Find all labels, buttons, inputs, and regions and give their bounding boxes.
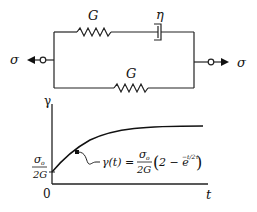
creep-graph (49, 104, 208, 184)
left-arrow-icon (27, 56, 35, 64)
bottom-spring-label: G (126, 66, 136, 81)
origin-label: 0 (43, 187, 51, 201)
dashpot-label: η (156, 7, 164, 22)
svg-text:2G: 2G (32, 169, 47, 180)
dashpot (154, 24, 194, 40)
svg-text:γ(t) =: γ(t) = (102, 156, 134, 169)
equation-label: γ(t) = σ o 2G ( 2 − e −t/2τ ) (102, 148, 202, 175)
right-paren: ) (196, 153, 202, 172)
diagram-canvas: G η G σ σ γ t 0 σ o 2G γ(t) = σ o 2G ( 2… (0, 0, 257, 212)
svg-text:2G: 2G (136, 164, 151, 175)
y-intercept-label: σ o 2G (32, 153, 47, 180)
bottom-spring (114, 84, 148, 92)
leader-line (78, 152, 100, 164)
viscoelastic-model (34, 24, 222, 92)
svg-text:o: o (41, 159, 45, 166)
x-axis-label: t (206, 187, 212, 202)
left-sigma-label: σ (10, 52, 20, 67)
top-spring-label: G (88, 8, 98, 23)
right-arrow-icon (221, 58, 229, 66)
svg-text:o: o (146, 154, 150, 161)
y-axis-label: γ (44, 94, 51, 108)
right-sigma-label: σ (237, 55, 247, 70)
top-spring (77, 28, 111, 36)
